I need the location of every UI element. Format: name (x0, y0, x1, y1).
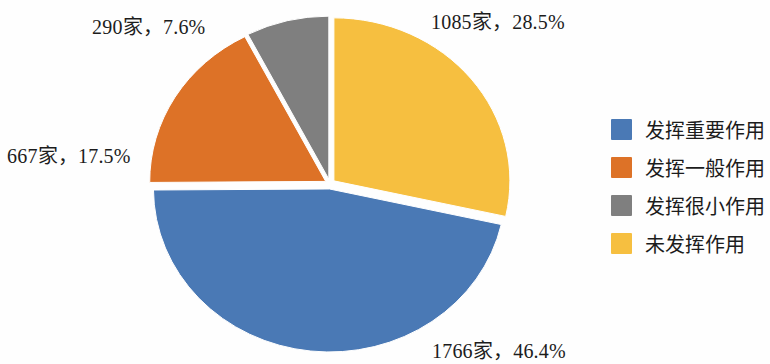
legend-color-swatch (611, 119, 632, 140)
pie-slices-group (150, 16, 510, 352)
legend-item[interactable]: 发挥重要作用 (611, 110, 763, 148)
slice-label-minor: 290家，7.6% (92, 11, 205, 40)
legend-color-swatch (611, 233, 632, 254)
slice-label-important: 1766家，46.4% (432, 335, 566, 364)
legend-item[interactable]: 未发挥作用 (611, 224, 763, 262)
pie-chart-figure: 1085家，28.5% 290家，7.6% 667家，17.5% 1766家，4… (0, 0, 770, 364)
legend-color-swatch (611, 157, 632, 178)
legend-item[interactable]: 发挥很小作用 (611, 186, 763, 224)
legend-item-label: 未发挥作用 (645, 229, 745, 258)
legend-item-label: 发挥重要作用 (645, 115, 765, 144)
slice-label-general: 667家，17.5% (7, 140, 131, 169)
pie-slice[interactable] (153, 189, 501, 352)
chart-legend: 发挥重要作用发挥一般作用发挥很小作用未发挥作用 (611, 110, 763, 262)
legend-color-swatch (611, 195, 632, 216)
slice-label-unused: 1085家，28.5% (431, 6, 565, 35)
legend-item-label: 发挥很小作用 (645, 191, 765, 220)
pie-slice[interactable] (334, 18, 510, 217)
legend-item[interactable]: 发挥一般作用 (611, 148, 763, 186)
legend-item-label: 发挥一般作用 (645, 153, 765, 182)
